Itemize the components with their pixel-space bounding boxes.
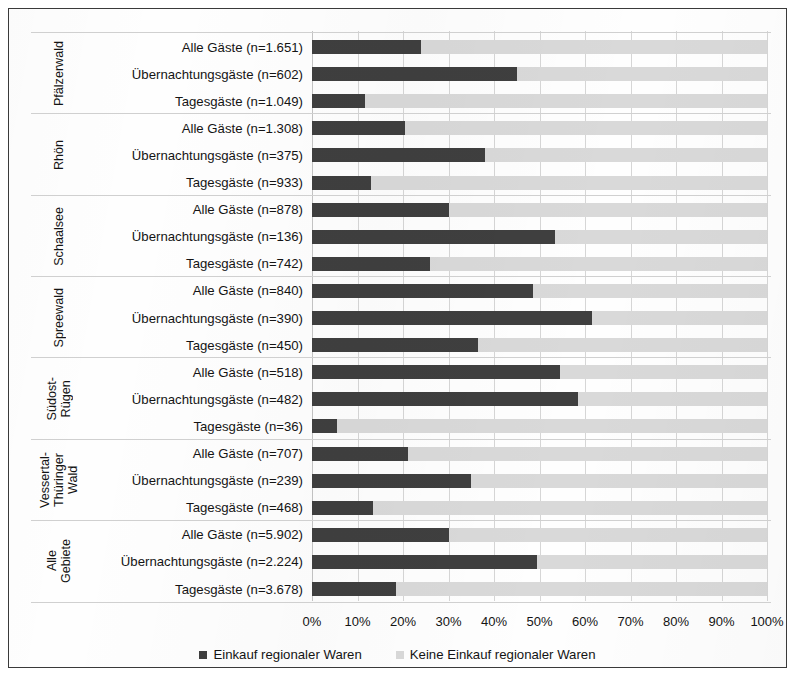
group-separator-bottom [31,602,771,603]
bar-row [312,94,767,108]
category-label: Alle Gäste (n=1.651) [182,38,303,57]
bar-row [312,365,767,379]
bar-row [312,419,767,433]
bar-segment-einkauf [312,94,365,108]
x-tick-label: 50% [526,613,552,631]
bar-segment-einkauf [312,230,555,244]
bar-segment-einkauf [312,257,430,271]
bar-row [312,528,767,542]
bar-row [312,257,767,271]
x-axis-tick-labels: 0%10%20%30%40%50%60%70%80%90%100% [312,613,767,633]
bar-segment-kein-einkauf [449,203,768,217]
bar-segment-einkauf [312,148,485,162]
bar-row [312,148,767,162]
bar-segment-einkauf [312,121,405,135]
category-label: Alle Gäste (n=1.308) [182,119,303,138]
bar-row [312,555,767,569]
bar-segment-kein-einkauf [578,392,767,406]
bar-segment-kein-einkauf [405,121,767,135]
bar-segment-einkauf [312,555,537,569]
group-separator [31,439,771,440]
category-label: Tagesgäste (n=742) [186,254,303,273]
bar-segment-einkauf [312,284,533,298]
bar-segment-kein-einkauf [537,555,767,569]
group-separator [31,357,771,358]
bar-segment-einkauf [312,528,449,542]
group-separator [31,520,771,521]
bar-segment-einkauf [312,582,396,596]
bar-row [312,176,767,190]
bar-segment-kein-einkauf [421,40,767,54]
group-label-text: Südost- Rügen [45,377,73,420]
bar-row [312,203,767,217]
group-separator [31,195,771,196]
category-label: Alle Gäste (n=5.902) [182,525,303,544]
group-separator-top [31,32,771,33]
scan-bleed-artifact [309,7,317,33]
bar-row [312,447,767,461]
bar-segment-kein-einkauf [396,582,767,596]
category-label-column: Alle Gäste (n=1.651)Übernachtungsgäste (… [79,31,309,601]
category-label: Alle Gäste (n=878) [193,200,303,219]
group-label-text: Vessertal- Thüringer Wald [38,452,80,508]
group-label-text: Pfälzerwald [52,41,66,106]
category-label: Tagesgäste (n=1.049) [175,92,303,111]
x-tick-label: 100% [750,613,783,631]
category-label: Übernachtungsgäste (n=136) [132,227,303,246]
bar-segment-kein-einkauf [373,501,767,515]
group-label-text: Rhön [52,140,66,170]
category-label: Tagesgäste (n=450) [186,336,303,355]
bar-segment-kein-einkauf [533,284,767,298]
bar-row [312,67,767,81]
bar-segment-kein-einkauf [365,94,767,108]
bar-segment-einkauf [312,447,408,461]
chart-legend: Einkauf regionaler WarenKeine Einkauf re… [9,647,786,662]
category-label: Alle Gäste (n=518) [193,363,303,382]
category-label: Alle Gäste (n=840) [193,281,303,300]
bar-segment-einkauf [312,176,371,190]
gridline-100pct [767,31,768,601]
category-label: Übernachtungsgäste (n=2.224) [121,552,303,571]
bar-segment-kein-einkauf [449,528,768,542]
category-label: Tagesgäste (n=3.678) [175,580,303,599]
legend-item[interactable]: Einkauf regionaler Waren [199,647,361,662]
bar-segment-einkauf [312,474,471,488]
bar-segment-einkauf [312,338,478,352]
bar-segment-kein-einkauf [408,447,767,461]
legend-label: Einkauf regionaler Waren [213,647,361,662]
x-tick-label: 80% [663,613,689,631]
bar-segment-einkauf [312,203,449,217]
x-tick-label: 0% [303,613,322,631]
bar-row [312,582,767,596]
x-tick-label: 60% [572,613,598,631]
group-label-text: Alle Gebiete [45,539,73,583]
bar-segment-einkauf [312,67,517,81]
category-label: Alle Gäste (n=707) [193,444,303,463]
bar-segment-kein-einkauf [471,474,767,488]
x-tick-label: 10% [344,613,370,631]
legend-swatch-light [396,651,404,659]
legend-label: Keine Einkauf regionaler Waren [410,647,596,662]
bar-row [312,284,767,298]
bar-row [312,392,767,406]
group-separator [31,113,771,114]
x-tick-label: 40% [481,613,507,631]
bar-segment-kein-einkauf [592,311,767,325]
category-label: Übernachtungsgäste (n=375) [132,146,303,165]
x-tick-label: 90% [708,613,734,631]
bar-row [312,311,767,325]
legend-item[interactable]: Keine Einkauf regionaler Waren [396,647,596,662]
legend-swatch-dark [199,651,207,659]
bar-row [312,501,767,515]
bar-segment-kein-einkauf [430,257,767,271]
category-label: Übernachtungsgäste (n=239) [132,471,303,490]
category-label: Übernachtungsgäste (n=390) [132,309,303,328]
category-label: Tagesgäste (n=933) [186,173,303,192]
bar-segment-einkauf [312,392,578,406]
bar-segment-einkauf [312,311,592,325]
bar-segment-einkauf [312,501,373,515]
bar-segment-kein-einkauf [560,365,767,379]
bar-segment-kein-einkauf [485,148,767,162]
bar-segment-kein-einkauf [337,419,767,433]
category-label: Tagesgäste (n=36) [193,417,303,436]
